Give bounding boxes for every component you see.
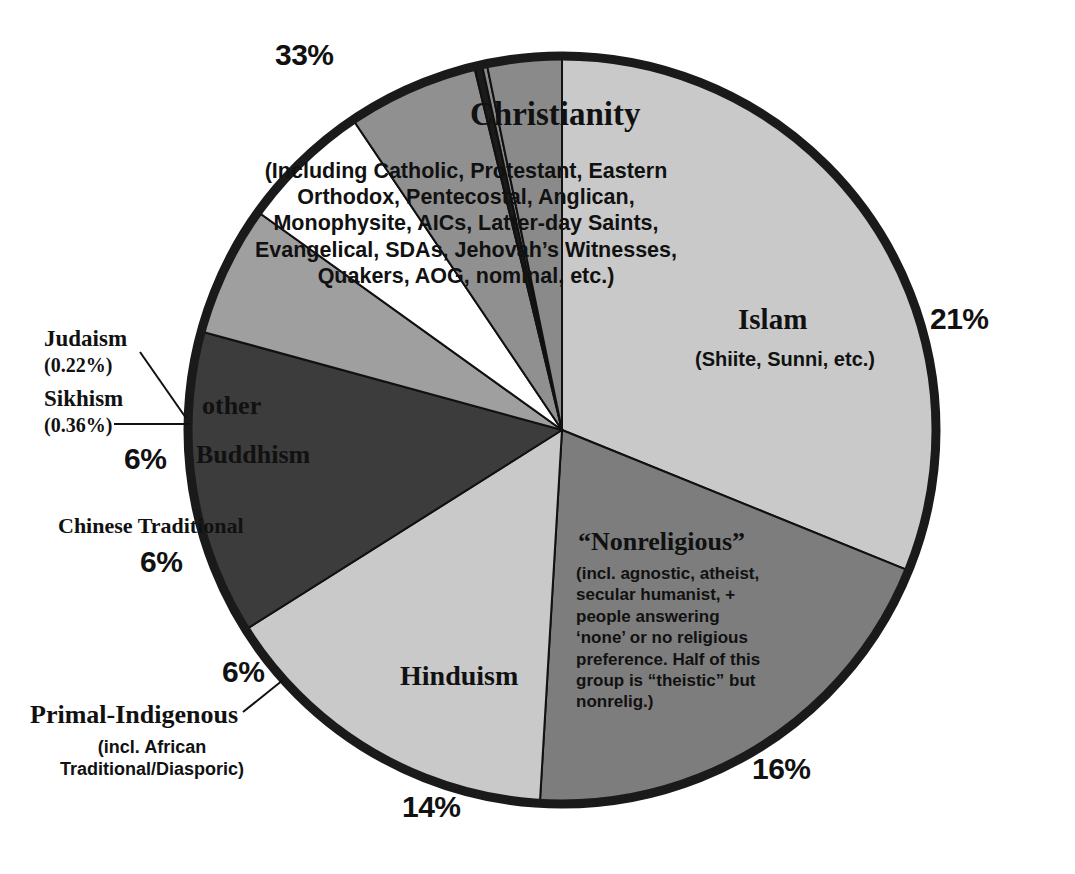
slice-label-other: other <box>202 391 261 421</box>
pct-nonreligious: 16% <box>752 752 811 786</box>
callout-detail-primal-indigenous: (incl. African Traditional/Diasporic) <box>22 737 282 780</box>
slice-detail-nonreligious: (incl. agnostic, atheist, secular humani… <box>576 563 772 713</box>
callout-label-sikhism: Sikhism <box>44 386 123 412</box>
slice-label-nonreligious: “Nonreligious” <box>578 527 745 557</box>
pct-christianity: 33% <box>275 38 334 72</box>
slice-label-buddhism: Buddhism <box>196 440 310 470</box>
slice-label-hinduism: Hinduism <box>400 660 518 692</box>
leader-line-judaism <box>140 352 186 418</box>
pct-islam: 21% <box>930 302 989 336</box>
slice-detail-islam: (Shiite, Sunni, etc.) <box>660 348 910 371</box>
pct-hinduism: 14% <box>402 790 461 824</box>
pct-chinese-traditional: 6% <box>140 545 182 579</box>
callout-label-primal-indigenous: Primal-Indigenous <box>30 700 238 730</box>
slice-label-christianity: Christianity <box>470 96 641 133</box>
callout-value-sikhism: (0.36%) <box>44 414 112 437</box>
pie-chart-figure: Christianity (Including Catholic, Protes… <box>0 0 1075 874</box>
callout-label-judaism: Judaism <box>44 326 127 352</box>
slice-detail-christianity: (Including Catholic, Protestant, Eastern… <box>236 158 696 289</box>
callout-label-chinese-traditional: Chinese Traditional <box>58 513 244 539</box>
pct-primal-indigenous: 6% <box>222 655 264 689</box>
slice-label-islam: Islam <box>738 303 807 336</box>
pct-buddhism: 6% <box>124 442 166 476</box>
callout-value-judaism: (0.22%) <box>44 354 112 377</box>
